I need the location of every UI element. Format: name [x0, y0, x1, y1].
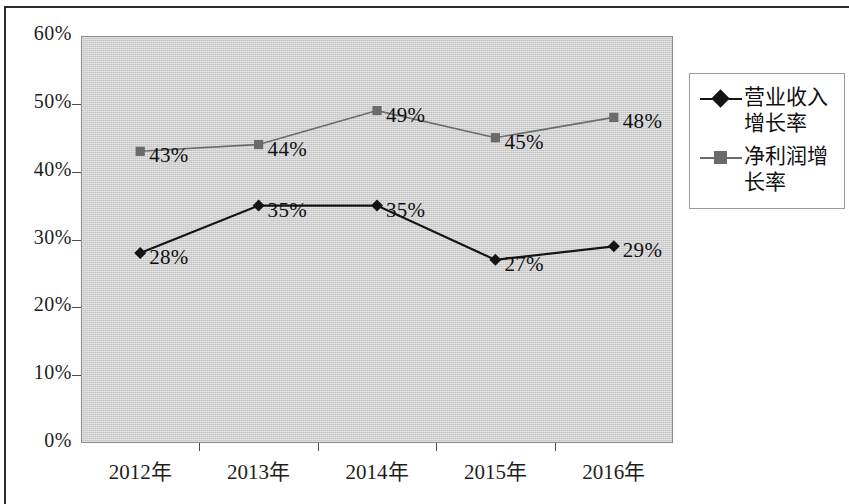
x-axis-tick-label: 2012年 — [75, 455, 205, 485]
legend-item-label: 净利润增长率 — [744, 143, 840, 195]
data-point-label: 35% — [268, 198, 307, 223]
data-point-label: 28% — [149, 245, 188, 270]
y-axis-tick — [72, 307, 81, 308]
diamond-marker-icon — [698, 86, 744, 112]
legend-item-label: 营业收入增长率 — [744, 84, 840, 136]
data-point-label: 43% — [149, 143, 188, 168]
y-axis-tick-label: 50% — [6, 90, 72, 113]
square-marker-icon — [698, 145, 744, 171]
data-point-label: 49% — [386, 103, 425, 128]
data-point-label: 35% — [386, 198, 425, 223]
y-axis-tick-label: 40% — [6, 158, 72, 181]
x-axis-tick-label: 2014年 — [312, 455, 442, 485]
data-point-label: 45% — [504, 130, 543, 155]
x-axis-tick-label: 2016年 — [549, 455, 679, 485]
chart-figure: 60%50%40%30%20%10%0% 2012年2013年2014年2015… — [0, 0, 849, 504]
y-axis-tick — [72, 375, 81, 376]
x-axis-tick — [555, 443, 556, 451]
y-axis-tick-label: 60% — [6, 22, 72, 45]
x-axis-tick-label: 2013年 — [194, 455, 324, 485]
data-point-label: 27% — [504, 252, 543, 277]
x-axis-tick — [436, 443, 437, 451]
y-axis-tick — [72, 172, 81, 173]
data-point-label: 48% — [623, 109, 662, 134]
data-point-label: 29% — [623, 238, 662, 263]
plot-area — [81, 36, 673, 443]
legend-item-net-profit[interactable]: 净利润增长率 — [698, 143, 840, 195]
y-axis-tick-label: 30% — [6, 226, 72, 249]
y-axis-tick — [72, 240, 81, 241]
plot-background-texture — [82, 37, 672, 442]
y-axis-tick-label: 10% — [6, 361, 72, 384]
data-point-label: 44% — [268, 137, 307, 162]
legend-item-operating-revenue[interactable]: 营业收入增长率 — [698, 84, 840, 136]
x-axis-tick — [318, 443, 319, 451]
x-axis-tick-label: 2015年 — [430, 455, 560, 485]
y-axis-tick — [72, 104, 81, 105]
y-axis-tick-label: 20% — [6, 293, 72, 316]
page-frame-top — [4, 6, 849, 8]
legend: 营业收入增长率 净利润增长率 — [689, 73, 845, 209]
y-axis-tick-label: 0% — [6, 429, 72, 452]
x-axis-tick — [199, 443, 200, 451]
